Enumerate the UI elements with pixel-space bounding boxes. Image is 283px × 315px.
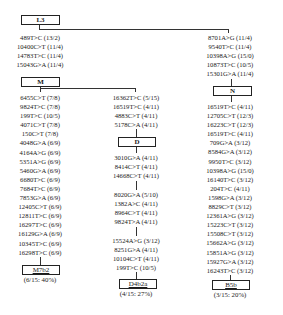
mutation: 4071C>T (7/8) — [2, 120, 78, 129]
mutation: 9540T>C (11/4) — [190, 42, 270, 51]
mutation: 15662A>G (3/12) — [190, 238, 270, 247]
mutation: 8701A>G (11/4) — [190, 33, 270, 42]
mutation: 8020G>A (5/10) — [100, 190, 172, 199]
mutations-d-group2: 8020G>A (5/10) 1382A>C (4/11) 8964C>T (4… — [100, 190, 172, 226]
mutation: 10345T>C (6/9) — [2, 239, 78, 248]
mutation: 5351A>G (6/9) — [2, 157, 78, 166]
mutation: 15301G>A (11/4) — [190, 69, 270, 78]
mutation: 16298T>C (6/9) — [2, 248, 78, 257]
node-l3-label: L3 — [36, 16, 44, 24]
mutation: 6680T>C (6/9) — [2, 175, 78, 184]
node-m7b2-box: M7b2 — [22, 265, 60, 275]
mutation: 12361A>G (3/12) — [190, 211, 270, 220]
mutations-d-group3: 15524A>G (3/12) 8251G>A (4/11) 10104C>T … — [100, 236, 172, 272]
connector-to-m7b2 — [40, 257, 41, 265]
connector-d-group1-2 — [136, 181, 137, 190]
node-d4b2a-box: D4b2a — [119, 279, 157, 289]
mutation: 8964C>T (4/11) — [100, 208, 172, 217]
node-l3-box: L3 — [21, 15, 60, 25]
node-b5b-box: B5b — [212, 280, 250, 290]
mutation: 15508C>T (3/12) — [190, 229, 270, 238]
node-m-box: M — [21, 77, 60, 87]
node-d-box: D — [118, 137, 156, 147]
mutation: 12811T>C (6/9) — [2, 211, 78, 220]
mutation: 16140T>C (3/12) — [190, 175, 270, 184]
mutation: 204T>C (4/11) — [190, 184, 270, 193]
mutation: 12705C>T (12/3) — [190, 111, 270, 120]
mutations-l3-to-n: 8701A>G (11/4) 9540T>C (11/4) 10398A>G (… — [190, 33, 270, 78]
mutation: 15043G>A (11/4) — [2, 60, 78, 69]
mutation: 15851A>G (3/12) — [190, 248, 270, 257]
m7b2-frequency: (6/15: 40%) — [2, 276, 78, 283]
mutation: 5460G>A (6/9) — [2, 166, 78, 175]
mutation: 10398A>G (15/0) — [190, 166, 270, 175]
mutation: 7853G>A (6/9) — [2, 193, 78, 202]
connector-to-n — [231, 79, 232, 86]
mutation: 14783T>C (11/4) — [2, 51, 78, 60]
node-d-label: D — [134, 138, 139, 146]
connector-to-d-column — [135, 88, 136, 92]
mutation: 4164A>G (6/9) — [2, 148, 78, 157]
mutation: 4048G>A (6/9) — [2, 138, 78, 147]
mutation: 150C>T (7/8) — [2, 129, 78, 138]
mutations-l3-to-m: 489T>C (13/2) 10400C>T (11/4) 14783T>C (… — [2, 33, 78, 69]
node-m-label: M — [37, 78, 44, 86]
mutation: 9824T>A (4/11) — [100, 217, 172, 226]
mutation: 10400C>T (11/4) — [2, 42, 78, 51]
mutation: 15524A>G (3/12) — [100, 236, 172, 245]
mutations-m-to-d: 16362T>C (5/15) 16519T>C (4/11) 4883C>T … — [100, 93, 172, 129]
mutation: 16519T>C (4/11) — [100, 102, 172, 111]
connector-d-group2-3 — [136, 227, 137, 236]
mutation: 10104C>T (4/11) — [100, 254, 172, 263]
mutation: 5178C>A (4/11) — [100, 120, 172, 129]
mutation: 489T>C (13/2) — [2, 33, 78, 42]
node-m7b2-label: M7b2 — [33, 266, 50, 274]
node-b5b-label: B5b — [225, 281, 237, 289]
mutation: 8584G>A (3/12) — [190, 147, 270, 156]
mutation: 16297T>C (6/9) — [2, 220, 78, 229]
mutation: 16129G>A (6/9) — [2, 229, 78, 238]
mutation: 16223C>T (12/3) — [190, 120, 270, 129]
b5b-frequency: (3/15: 20%) — [190, 291, 270, 298]
mutation: 16362T>C (5/15) — [100, 93, 172, 102]
connector-m-down — [40, 87, 41, 92]
mutation: 9950T>C (3/12) — [190, 157, 270, 166]
mutation: 6455C>T (7/8) — [2, 93, 78, 102]
mutation: 8829C>T (3/12) — [190, 202, 270, 211]
mutation: 16243T>C (3/12) — [190, 266, 270, 275]
mutation: 16519T>C (4/11) — [190, 129, 270, 138]
mutation: 15223C>T (3/12) — [190, 220, 270, 229]
node-n-label: N — [230, 87, 235, 95]
mutation: 9824T>C (7/8) — [2, 102, 78, 111]
mutation: 10873T>C (10/5) — [190, 60, 270, 69]
node-d4b2a-label: D4b2a — [129, 280, 148, 288]
mutations-d-group1: 3010G>A (4/11) 8414C>T (4/11) 14668C>T (… — [100, 153, 172, 180]
mutation: 16519T>C (4/11) — [190, 102, 270, 111]
mutation: 7684T>C (6/9) — [2, 184, 78, 193]
connector-m-horizontal — [40, 88, 136, 89]
mutation: 12405C>T (6/9) — [2, 202, 78, 211]
mutation: 8414C>T (4/11) — [100, 162, 172, 171]
mutation: 3010G>A (4/11) — [100, 153, 172, 162]
connector-l3-horizontal — [39, 29, 229, 30]
d4b2a-frequency: (4/15: 27%) — [100, 290, 172, 297]
connector-to-d4b2a — [136, 272, 137, 279]
mutation: 15927G>A (3/12) — [190, 257, 270, 266]
mutation: 199T>C (10/5) — [100, 263, 172, 272]
mutation: 1598G>A (3/12) — [190, 193, 270, 202]
mutation: 8251G>A (4/11) — [100, 245, 172, 254]
mutation: 199T>C (10/5) — [2, 111, 78, 120]
connector-to-d — [136, 129, 137, 137]
mutation: 1382A>C (4/11) — [100, 199, 172, 208]
mutation: 10398A>G (15/0) — [190, 51, 270, 60]
mutations-m-to-m7b2: 6455C>T (7/8) 9824T>C (7/8) 199T>C (10/5… — [2, 93, 78, 257]
mutation: 4883C>T (4/11) — [100, 111, 172, 120]
node-n-box: N — [213, 86, 252, 96]
mutation: 14668C>T (4/11) — [100, 171, 172, 180]
mutation: 709G>A (3/12) — [190, 138, 270, 147]
mutations-n-to-b5b: 16519T>C (4/11) 12705C>T (12/3) 16223C>T… — [190, 102, 270, 275]
